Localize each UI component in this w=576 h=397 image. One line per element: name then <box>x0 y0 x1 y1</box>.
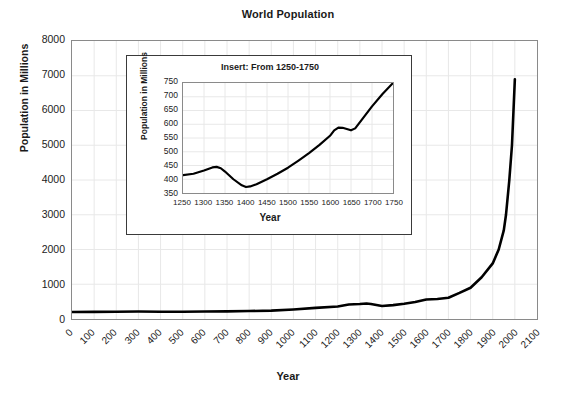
main-y-tick: 0 <box>19 313 65 325</box>
main-x-tick: 1300 <box>317 327 364 374</box>
main-x-tick: 1700 <box>406 327 453 374</box>
main-x-tick: 200 <box>72 327 119 374</box>
inset-y-tick: 350 <box>152 188 178 198</box>
main-x-tick: 1100 <box>272 327 319 374</box>
main-x-tick: 800 <box>205 327 252 374</box>
inset-y-tick: 400 <box>152 174 178 184</box>
main-x-tick: 1000 <box>250 327 297 374</box>
main-x-tick: 900 <box>228 327 275 374</box>
inset-y-tick: 450 <box>152 160 178 170</box>
main-y-tick: 1000 <box>19 278 65 290</box>
main-x-tick: 2100 <box>495 327 542 374</box>
main-x-tick: 300 <box>94 327 141 374</box>
main-y-axis-label: Population in Millions <box>18 18 30 178</box>
inset-x-tick: 1750 <box>379 198 409 207</box>
main-x-tick: 2000 <box>472 327 519 374</box>
main-x-tick: 0 <box>28 327 75 374</box>
inset-x-axis-label: Year <box>127 212 413 223</box>
main-y-tick: 2000 <box>19 243 65 255</box>
main-x-tick: 400 <box>116 327 163 374</box>
main-x-tick: 1800 <box>428 327 475 374</box>
inset-y-tick: 700 <box>152 90 178 100</box>
main-x-tick: 1500 <box>361 327 408 374</box>
inset-line-chart <box>183 83 393 193</box>
inset-panel: Insert: From 1250-1750 Population in Mil… <box>126 55 412 235</box>
inset-title: Insert: From 1250-1750 <box>127 62 413 72</box>
main-x-tick: 1200 <box>294 327 341 374</box>
main-x-tick: 1400 <box>339 327 386 374</box>
inset-y-tick: 750 <box>152 76 178 86</box>
main-x-tick: 700 <box>183 327 230 374</box>
main-x-tick: 600 <box>161 327 208 374</box>
inset-y-tick: 550 <box>152 132 178 142</box>
main-y-tick: 3000 <box>19 208 65 220</box>
main-x-tick: 1600 <box>383 327 430 374</box>
chart-root: World Population Population in Millions … <box>0 0 576 397</box>
main-x-tick: 100 <box>50 327 97 374</box>
main-x-tick: 500 <box>139 327 186 374</box>
inset-y-axis-label: Population in Millions <box>139 41 149 151</box>
inset-y-tick: 600 <box>152 118 178 128</box>
inset-y-tick: 500 <box>152 146 178 156</box>
page-title: World Population <box>0 8 576 20</box>
inset-y-tick: 650 <box>152 104 178 114</box>
main-x-axis-label: Year <box>0 370 576 382</box>
main-x-tick: 1900 <box>450 327 497 374</box>
inset-gridlines <box>183 83 393 193</box>
inset-plot-area <box>182 82 394 194</box>
